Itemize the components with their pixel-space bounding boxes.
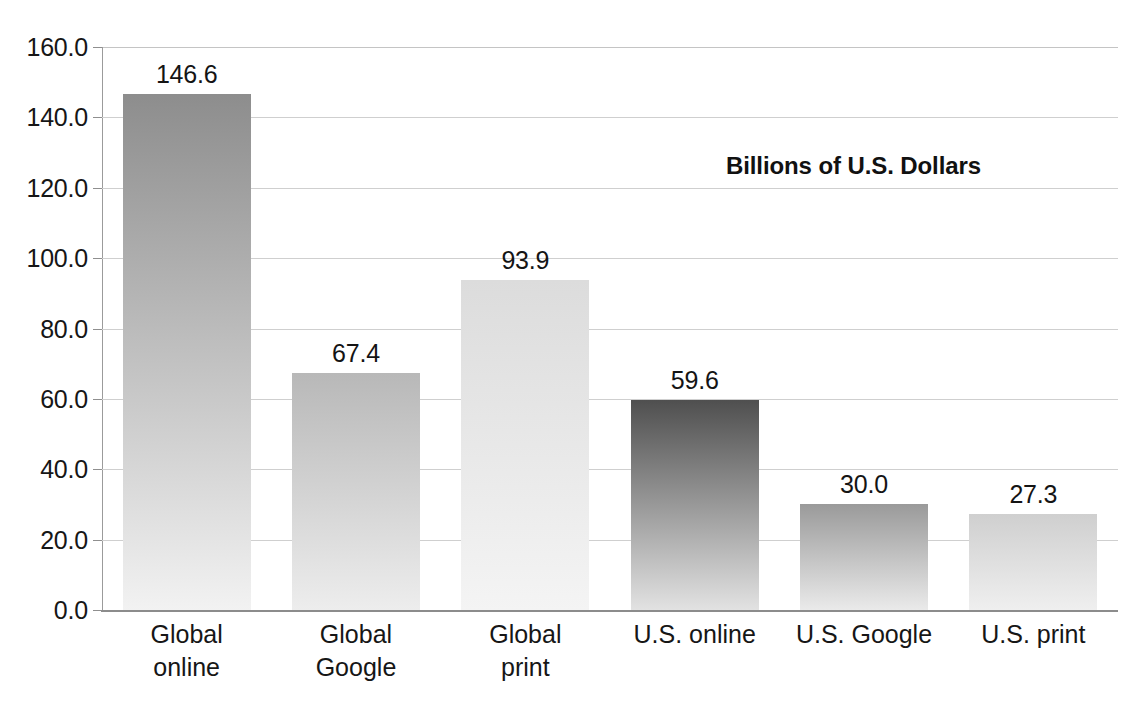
y-axis-tick-label: 100.0	[0, 244, 88, 273]
bar: 30.0	[800, 504, 928, 610]
y-axis-tick-mark	[93, 47, 102, 48]
bar-chart: 0.020.040.060.080.0100.0120.0140.0160.0 …	[0, 0, 1144, 708]
category-label-line: Global	[441, 618, 610, 651]
category-label-line: online	[102, 651, 271, 684]
bar: 146.6	[123, 94, 251, 610]
y-axis-tick-mark	[93, 610, 102, 611]
y-axis-tick-label: 80.0	[0, 314, 88, 343]
y-axis-tick-label: 140.0	[0, 103, 88, 132]
bar: 27.3	[969, 514, 1097, 610]
y-axis-tick-label: 160.0	[0, 33, 88, 62]
x-axis-category-label: Globalprint	[441, 618, 610, 684]
y-axis-tick-mark	[93, 540, 102, 541]
y-axis-tick-label: 60.0	[0, 384, 88, 413]
bar-value-label: 59.6	[671, 366, 719, 395]
bar-value-label: 93.9	[501, 246, 549, 275]
y-axis-tick-mark	[93, 469, 102, 470]
category-label-line: Google	[271, 651, 440, 684]
x-axis-category-label: U.S. online	[610, 618, 779, 651]
y-axis-tick-mark	[93, 399, 102, 400]
x-axis-category-label: Globalonline	[102, 618, 271, 684]
bar: 67.4	[292, 373, 420, 610]
bar-series: 146.667.493.959.630.027.3	[102, 47, 1118, 612]
bar-value-label: 146.6	[156, 60, 218, 89]
bar-value-label: 27.3	[1009, 480, 1057, 509]
y-axis-tick-label: 120.0	[0, 173, 88, 202]
category-label-line: U.S. online	[610, 618, 779, 651]
category-label-line: Global	[271, 618, 440, 651]
y-axis-tick-mark	[93, 329, 102, 330]
x-axis-category-labels: GlobalonlineGlobalGoogleGlobalprintU.S. …	[102, 618, 1118, 706]
category-label-line: U.S. Google	[779, 618, 948, 651]
plot-area: 146.667.493.959.630.027.3	[102, 47, 1118, 612]
x-axis-category-label: U.S. print	[949, 618, 1118, 651]
y-axis-tick-mark	[93, 188, 102, 189]
y-axis-tick-mark	[93, 258, 102, 259]
y-axis-tick-label: 20.0	[0, 525, 88, 554]
category-label-line: print	[441, 651, 610, 684]
bar: 59.6	[631, 400, 759, 610]
bar: 93.9	[461, 280, 589, 610]
category-label-line: Global	[102, 618, 271, 651]
category-label-line: U.S. print	[949, 618, 1118, 651]
y-axis-tick-label: 40.0	[0, 455, 88, 484]
x-axis-category-label: U.S. Google	[779, 618, 948, 651]
bar-value-label: 30.0	[840, 470, 888, 499]
y-axis-tick-label: 0.0	[0, 596, 88, 625]
units-annotation: Billions of U.S. Dollars	[726, 152, 981, 180]
bar-value-label: 67.4	[332, 339, 380, 368]
y-axis-tick-mark	[93, 117, 102, 118]
x-axis-category-label: GlobalGoogle	[271, 618, 440, 684]
y-axis-tick-labels: 0.020.040.060.080.0100.0120.0140.0160.0	[0, 0, 88, 708]
